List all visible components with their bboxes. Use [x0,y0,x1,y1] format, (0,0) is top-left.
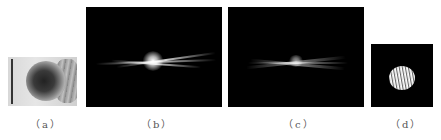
label-b: （b） [141,116,173,131]
panel-d-image [371,44,433,107]
light-center [288,55,304,67]
label-a: （a） [30,116,62,131]
lens-aperture [26,61,66,101]
panel-a-image [8,57,77,106]
label-c: （c） [283,116,315,131]
label-d: （d） [390,116,422,131]
panel-b-image [86,7,222,107]
light-center [142,51,164,71]
rod [11,59,13,104]
striped-disc [389,66,415,90]
panel-c-image [228,7,364,107]
